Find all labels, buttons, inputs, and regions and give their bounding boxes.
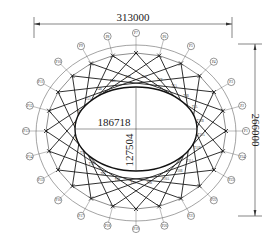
node-p4: P4 [198, 58, 218, 78]
svg-text:P19: P19 [133, 227, 139, 231]
node-p9: P9 [77, 43, 93, 66]
svg-text:P21: P21 [188, 214, 194, 218]
node-p7: P7 [132, 29, 139, 55]
inner-width-label: 186718 [98, 116, 132, 128]
svg-text:P12: P12 [27, 104, 33, 108]
node-p22: P22 [198, 184, 218, 204]
svg-text:P23: P23 [228, 178, 234, 182]
ring-member [72, 186, 91, 198]
member-label: T9A [131, 181, 137, 185]
node-p14: P14 [26, 149, 51, 160]
member-label: T3B [125, 75, 130, 79]
svg-text:P14: P14 [27, 155, 33, 159]
svg-text:P2: P2 [240, 104, 244, 108]
member-label: T4A [110, 79, 116, 83]
svg-text:P1: P1 [244, 129, 248, 133]
node-p12: P12 [26, 102, 51, 113]
svg-text:P8: P8 [106, 35, 110, 39]
node-p21: P21 [179, 197, 195, 220]
ring-member [136, 53, 159, 56]
member-label: T9B [147, 181, 152, 185]
overall-height-label: 266000 [250, 114, 262, 148]
member-label: T7B [89, 162, 94, 166]
ring-member [113, 53, 136, 56]
member-label: T4B [96, 87, 101, 91]
svg-text:P20: P20 [162, 224, 168, 228]
svg-text:P22: P22 [211, 198, 217, 202]
ring-member [181, 186, 200, 198]
svg-text:P15: P15 [38, 178, 44, 182]
ring-member [200, 76, 214, 92]
svg-text:P24: P24 [239, 155, 245, 159]
member-label: T8A [101, 172, 107, 176]
member-label: T11A [187, 159, 195, 163]
svg-text:P17: P17 [78, 214, 84, 218]
node-p17: P17 [77, 197, 93, 220]
overall-width-label: 313000 [117, 11, 151, 23]
ring-member [72, 63, 91, 75]
node-p3: P3 [212, 78, 235, 94]
svg-text:P4: P4 [212, 60, 216, 64]
truss-plan-drawing: 313000 266000 T1AT1BT2AT2BT3AT3BT4AT4BT5… [0, 0, 273, 242]
svg-text:P18: P18 [105, 224, 111, 228]
svg-text:P13: P13 [23, 129, 29, 133]
node-p13: P13 [22, 127, 48, 134]
member-label: T12A [198, 133, 206, 137]
node-p10: P10 [55, 58, 75, 78]
truss-member [72, 170, 214, 186]
svg-text:P5: P5 [189, 44, 193, 48]
member-label: T11B [194, 146, 201, 150]
ring-member [223, 131, 226, 151]
ring-member [223, 111, 226, 131]
node-p1: P1 [224, 127, 250, 134]
node-p5: P5 [179, 43, 195, 66]
svg-text:P6: P6 [163, 35, 167, 39]
svg-text:P11: P11 [38, 80, 44, 84]
node-p11: P11 [37, 78, 60, 94]
node-p2: P2 [221, 102, 246, 113]
inner-height-label: 127504 [123, 133, 135, 167]
node-p16: P16 [55, 184, 75, 204]
ring-member [58, 170, 72, 186]
member-label: T3A [141, 75, 147, 79]
ring-member [181, 63, 200, 75]
svg-text:P7: P7 [134, 31, 138, 35]
node-p6: P6 [157, 33, 168, 58]
member-label: T8B [115, 178, 120, 182]
ring-member [46, 131, 49, 151]
svg-text:P3: P3 [229, 80, 233, 84]
ring-member [46, 111, 49, 131]
member-label: T10A [162, 177, 170, 181]
node-p19: P19 [132, 207, 139, 233]
ring-member [136, 206, 159, 209]
member-label: T10B [176, 169, 183, 173]
svg-text:P9: P9 [79, 44, 83, 48]
ring-member [200, 170, 214, 186]
member-label: T12B [197, 119, 204, 123]
node-p24: P24 [221, 149, 246, 160]
height-dimension: 266000 [238, 44, 262, 216]
svg-text:P16: P16 [55, 198, 61, 202]
node-p8: P8 [104, 33, 115, 58]
svg-text:P10: P10 [55, 60, 61, 64]
ring-member [58, 76, 72, 92]
ring-member [113, 206, 136, 209]
